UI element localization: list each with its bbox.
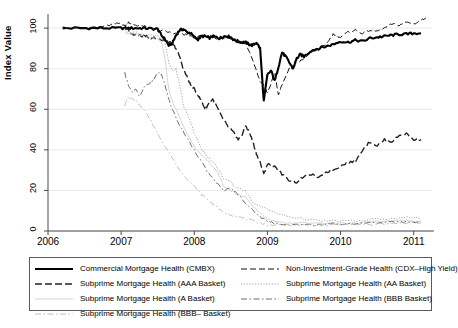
legend-column-right: Non-Investment-Grade Health (CDX–High Yi… — [240, 261, 430, 306]
y-tick-label: 20 — [28, 175, 38, 201]
legend-line-swatch — [240, 277, 280, 291]
legend-item[interactable]: Non-Investment-Grade Health (CDX–High Yi… — [240, 261, 430, 276]
x-tick-label: 2009 — [247, 236, 287, 247]
legend-line-swatch — [240, 262, 280, 276]
legend-item[interactable]: Commercial Mortgage Health (CMBX) — [34, 261, 239, 276]
series-line — [125, 72, 421, 226]
legend-label: Subprime Mortgage Health (AA Basket) — [286, 277, 426, 291]
y-tick-label: 100 — [28, 13, 38, 39]
series-line — [125, 30, 421, 222]
y-tick-label: 40 — [28, 135, 38, 161]
y-tick-label: 80 — [28, 54, 38, 80]
legend-line-swatch — [34, 277, 74, 291]
y-axis-title: Index Value — [2, 26, 13, 80]
series-line — [125, 97, 421, 226]
legend-label: Subprime Mortgage Health (A Basket) — [80, 292, 215, 306]
legend-line-swatch — [34, 307, 74, 321]
legend-label: Non-Investment-Grade Health (CDX–High Yi… — [286, 262, 458, 276]
chart-legend: Commercial Mortgage Health (CMBX)Subprim… — [29, 257, 432, 311]
x-tick-label: 2007 — [101, 236, 141, 247]
legend-item[interactable]: Subprime Mortgage Health (BBB Basket) — [240, 291, 430, 306]
series-line — [125, 32, 421, 223]
x-tick-label: 2011 — [394, 236, 434, 247]
series-line — [63, 18, 429, 95]
legend-item[interactable]: Subprime Mortgage Health (AAA Basket) — [34, 276, 239, 291]
series-line — [125, 28, 421, 183]
legend-item[interactable]: Subprime Mortgage Health (AA Basket) — [240, 276, 430, 291]
x-tick-label: 2006 — [28, 236, 68, 247]
legend-line-swatch — [34, 262, 74, 276]
legend-label: Subprime Mortgage Health (BBB– Basket) — [80, 307, 230, 321]
series-line — [63, 27, 421, 101]
legend-item[interactable]: Subprime Mortgage Health (A Basket) — [34, 291, 239, 306]
y-tick-label: 60 — [28, 94, 38, 120]
legend-label: Subprime Mortgage Health (BBB Basket) — [286, 292, 432, 306]
legend-line-swatch — [240, 292, 280, 306]
x-tick-label: 2010 — [321, 236, 361, 247]
x-tick-label: 2008 — [174, 236, 214, 247]
chart-svg — [0, 0, 444, 250]
legend-label: Subprime Mortgage Health (AAA Basket) — [80, 277, 225, 291]
legend-label: Commercial Mortgage Health (CMBX) — [80, 262, 215, 276]
plot-area — [0, 0, 444, 250]
legend-item[interactable]: Subprime Mortgage Health (BBB– Basket) — [34, 306, 239, 321]
legend-line-swatch — [34, 292, 74, 306]
legend-column-left: Commercial Mortgage Health (CMBX)Subprim… — [34, 261, 239, 321]
